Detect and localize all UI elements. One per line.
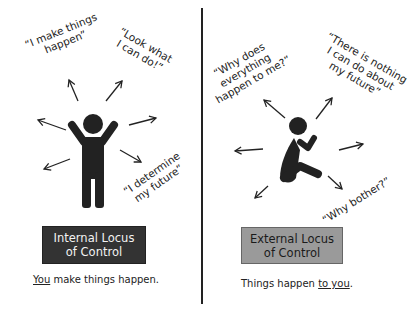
arrow-icon xyxy=(235,149,263,151)
person-sitting-hugging-knees-icon xyxy=(280,117,318,183)
arrow-icon xyxy=(44,159,70,169)
arrow-icon xyxy=(106,81,122,101)
arrow-icon xyxy=(129,118,156,125)
person-arms-raised-icon xyxy=(72,114,114,208)
arrow-icon xyxy=(38,120,66,130)
arrow-icon xyxy=(339,144,363,150)
arrow-icon xyxy=(120,150,141,162)
arrow-icon xyxy=(264,100,285,118)
arrow-icon xyxy=(69,80,78,101)
arrow-icon xyxy=(316,98,332,119)
arrow-icon xyxy=(255,186,268,198)
diagram-graphics xyxy=(0,0,412,312)
arrow-icon xyxy=(328,176,342,189)
